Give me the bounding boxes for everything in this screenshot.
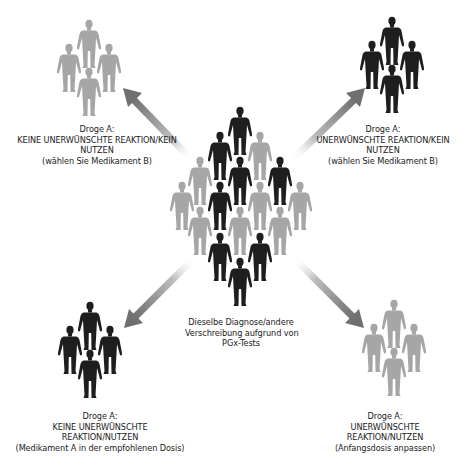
center-caption: Dieselbe Diagnose/andere Verschreibung a… — [185, 317, 297, 349]
bottom-right-outcome-line1: UNERWÜNSCHTE — [310, 422, 460, 433]
top-right-drug-label: Droge A: — [300, 124, 466, 135]
person-dark-icon — [208, 233, 232, 281]
top-right-outcome-line2: NUTZEN — [300, 145, 466, 156]
top-left-caption: Droge A: KEINE UNERWÜNSCHTE REAKTION/KEI… — [2, 124, 192, 166]
top-left-recommendation: (wählen Sie Medikament B) — [2, 156, 192, 167]
person-dark-icon — [380, 65, 404, 113]
pgx-diagram: Droge A: KEINE UNERWÜNSCHTE REAKTION/KEI… — [0, 0, 466, 469]
bottom-left-outcome-line1: KEINE UNERWÜNSCHTE — [2, 422, 198, 433]
bottom-left-caption: Droge A: KEINE UNERWÜNSCHTE REAKTION/NUT… — [2, 411, 198, 453]
person-dark-icon — [228, 107, 252, 155]
person-dark-icon — [360, 41, 384, 89]
person-light-icon — [362, 324, 386, 372]
bottom-right-outcome-group — [362, 300, 426, 396]
person-light-icon — [57, 44, 81, 92]
top-right-recommendation: (wählen Sie Medikament B) — [300, 156, 466, 167]
person-light-icon — [97, 44, 121, 92]
bottom-left-recommendation: (Medikament A in der empfohlenen Dosis) — [2, 443, 198, 454]
top-left-outcome-line2: NUTZEN — [2, 145, 192, 156]
person-light-icon — [402, 324, 426, 372]
top-left-outcome-line1: KEINE UNERWÜNSCHTE REAKTION/KEIN — [2, 135, 192, 146]
person-light-icon — [382, 300, 406, 348]
bottom-right-caption: Droge A: UNERWÜNSCHTE REAKTION/NUTZEN (A… — [310, 411, 460, 453]
person-light-icon — [268, 207, 292, 255]
top-right-outcome-line1: UNERWÜNSCHTE REAKTION/KEIN — [300, 135, 466, 146]
person-light-icon — [77, 20, 101, 68]
person-dark-icon — [98, 326, 122, 374]
person-dark-icon — [228, 157, 252, 205]
bottom-right-drug-label: Droge A: — [310, 411, 460, 422]
person-dark-icon — [400, 41, 424, 89]
person-dark-icon — [58, 326, 82, 374]
top-left-drug-label: Droge A: — [2, 124, 192, 135]
person-light-icon — [77, 68, 101, 116]
person-dark-icon — [228, 258, 252, 306]
top-right-outcome-group — [360, 17, 424, 113]
person-light-icon — [248, 132, 272, 180]
center-caption-line3: PGx-Tests — [185, 338, 297, 349]
center-caption-line1: Dieselbe Diagnose/andere — [185, 317, 297, 328]
person-light-icon — [382, 348, 406, 396]
person-light-icon — [188, 207, 212, 255]
center-caption-line2: Verschreibung aufgrund von — [185, 328, 297, 339]
bottom-left-outcome-group — [58, 302, 122, 398]
bottom-right-outcome-line2: REAKTION/NUTZEN — [310, 432, 460, 443]
bottom-left-outcome-line2: REAKTION/NUTZEN — [2, 432, 198, 443]
bottom-left-drug-label: Droge A: — [2, 411, 198, 422]
person-light-icon — [248, 182, 272, 230]
person-dark-icon — [248, 233, 272, 281]
person-dark-icon — [268, 157, 292, 205]
person-dark-icon — [208, 132, 232, 180]
person-dark-icon — [208, 182, 232, 230]
figures-layer — [0, 0, 466, 469]
person-light-icon — [228, 207, 252, 255]
person-dark-icon — [78, 350, 102, 398]
person-dark-icon — [78, 302, 102, 350]
top-right-caption: Droge A: UNERWÜNSCHTE REAKTION/KEIN NUTZ… — [300, 124, 466, 166]
bottom-right-recommendation: (Anfangsdosis anpassen) — [310, 443, 460, 454]
person-light-icon — [288, 182, 312, 230]
top-left-outcome-group — [57, 20, 121, 116]
person-dark-icon — [380, 17, 404, 65]
